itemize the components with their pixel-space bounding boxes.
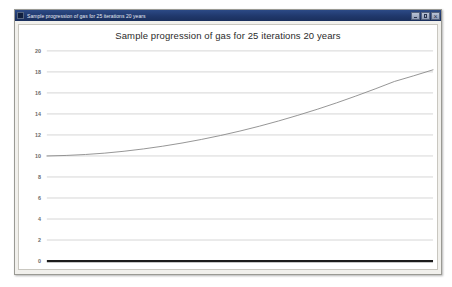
- series-line: [47, 70, 433, 156]
- y-axis-tick-label: 2: [38, 237, 41, 243]
- chart-plot-area: 20181614121086420: [19, 25, 437, 269]
- y-axis-tick-label: 20: [35, 48, 41, 54]
- y-axis-tick-label: 10: [35, 153, 41, 159]
- y-axis-tick-label: 16: [35, 90, 41, 96]
- series-group: [47, 70, 433, 156]
- y-axis-tick-label: 18: [35, 69, 41, 75]
- y-axis-tick-labels: 20181614121086420: [35, 48, 41, 264]
- minimize-icon[interactable]: [411, 12, 420, 20]
- application-window: Sample progression of gas for 25 iterati…: [14, 9, 442, 275]
- y-axis-tick-label: 12: [35, 132, 41, 138]
- window-client-area: Sample progression of gas for 25 iterati…: [18, 24, 438, 270]
- y-axis-tick-label: 14: [35, 111, 41, 117]
- window-title-text: Sample progression of gas for 25 iterati…: [27, 13, 410, 19]
- chart-window-icon: [17, 12, 24, 19]
- line-chart: Sample progression of gas for 25 iterati…: [19, 25, 437, 269]
- gridlines-group: [47, 51, 433, 240]
- y-axis-tick-label: 0: [38, 258, 41, 264]
- y-axis-tick-label: 8: [38, 174, 41, 180]
- window-title-bar[interactable]: Sample progression of gas for 25 iterati…: [15, 10, 441, 21]
- y-axis-tick-label: 4: [38, 216, 41, 222]
- close-icon[interactable]: [431, 12, 440, 20]
- desktop-background: Sample progression of gas for 25 iterati…: [0, 0, 452, 287]
- y-axis-tick-label: 6: [38, 195, 41, 201]
- maximize-icon[interactable]: [421, 12, 430, 20]
